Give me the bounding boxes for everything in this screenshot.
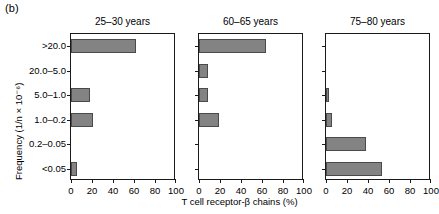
plot-area-75-80-years: 75–80 years020406080100	[325, 33, 430, 180]
x-axis-tick-label: 20	[342, 185, 353, 196]
bar	[326, 113, 332, 127]
x-axis-tick-label: 60	[257, 185, 268, 196]
bar	[71, 88, 90, 102]
bar	[199, 113, 219, 127]
x-axis-tick-mark	[71, 179, 72, 183]
bar	[326, 162, 382, 176]
x-axis-tick-label: 40	[236, 185, 247, 196]
x-axis-tick-label: 20	[87, 185, 98, 196]
bar	[326, 137, 366, 151]
plot-title: 60–65 years	[199, 16, 302, 27]
x-axis-tick-mark	[241, 179, 242, 183]
x-axis-tick-mark	[389, 179, 390, 183]
plot-title: 25–30 years	[71, 16, 174, 27]
x-axis-tick-label: 80	[405, 185, 416, 196]
y-axis-tick-label: 20.0–5.0	[29, 64, 66, 75]
x-axis-tick-mark	[199, 179, 200, 183]
y-axis-tick-mark	[67, 71, 71, 72]
x-axis-tick-label: 40	[108, 185, 119, 196]
y-axis-tick-label: >20.0	[42, 40, 66, 51]
bar	[71, 113, 93, 127]
x-axis-tick-mark	[368, 179, 369, 183]
x-axis-tick-mark	[283, 179, 284, 183]
y-axis-tick-label: 0.2–0.05	[29, 138, 66, 149]
x-axis-tick-mark	[155, 179, 156, 183]
x-axis-tick-label: 40	[363, 185, 374, 196]
bar	[199, 88, 208, 102]
bar	[326, 88, 329, 102]
y-axis-tick-mark	[322, 71, 326, 72]
x-axis-tick-mark	[175, 179, 176, 183]
x-axis-tick-label: 20	[215, 185, 226, 196]
plot-area-60-65-years: 60–65 years020406080100	[198, 33, 303, 180]
x-axis-tick-label: 60	[129, 185, 140, 196]
x-axis-tick-label: 100	[423, 185, 439, 196]
y-axis-tick-mark	[322, 46, 326, 47]
x-axis-title: T cell receptor-β chains (%)	[0, 196, 439, 207]
y-axis-tick-mark	[195, 144, 199, 145]
y-axis-tick-labels: >20.020.0–5.05.0–1.01.0–0.20.2–0.05<0.05	[16, 33, 69, 180]
plot-area-25-30-years: 25–30 years020406080100	[70, 33, 175, 180]
plot-title: 75–80 years	[326, 16, 429, 27]
x-axis-tick-label: 60	[384, 185, 395, 196]
x-axis-tick-label: 0	[196, 185, 201, 196]
x-axis-tick-mark	[410, 179, 411, 183]
figure-panel-b: (b) Frequency (1/n × 10⁻⁶) >20.020.0–5.0…	[0, 0, 439, 214]
x-axis-tick-mark	[262, 179, 263, 183]
x-axis-tick-mark	[303, 179, 304, 183]
x-axis-tick-mark	[326, 179, 327, 183]
x-axis-tick-label: 80	[150, 185, 161, 196]
y-axis-tick-mark	[67, 144, 71, 145]
x-axis-tick-label: 100	[296, 185, 312, 196]
y-axis-tick-label: 1.0–0.2	[34, 113, 66, 124]
x-axis-tick-label: 0	[68, 185, 73, 196]
y-axis-tick-mark	[195, 169, 199, 170]
x-axis-tick-label: 80	[278, 185, 289, 196]
bar	[71, 162, 77, 176]
y-axis-tick-label: <0.05	[42, 162, 66, 173]
x-axis-tick-label: 0	[323, 185, 328, 196]
x-axis-tick-mark	[134, 179, 135, 183]
x-axis-tick-mark	[430, 179, 431, 183]
x-axis-tick-label: 100	[168, 185, 184, 196]
y-axis-title-container: Frequency (1/n × 10⁻⁶)	[0, 33, 16, 180]
figure-panel-label: (b)	[5, 2, 19, 14]
x-axis-tick-mark	[92, 179, 93, 183]
bar	[199, 64, 208, 78]
bar	[199, 39, 266, 53]
x-axis-tick-mark	[113, 179, 114, 183]
y-axis-tick-label: 5.0–1.0	[34, 89, 66, 100]
bar	[71, 39, 136, 53]
x-axis-tick-mark	[347, 179, 348, 183]
x-axis-tick-mark	[220, 179, 221, 183]
